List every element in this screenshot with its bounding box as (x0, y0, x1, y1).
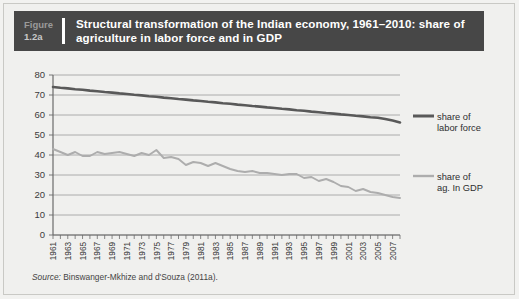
x-axis-label: 2003 (359, 242, 368, 261)
x-axis-label: 1993 (285, 242, 294, 261)
legend-label-2-line1: share of (437, 172, 471, 182)
x-axis-label: 2007 (389, 242, 398, 261)
line-chart: 0102030405060708019611963196519671969197… (4, 4, 516, 296)
source-prefix: Source: (32, 272, 61, 282)
source-note: Source: Binswanger-Mkhize and d'Souza (2… (32, 272, 218, 282)
y-axis-label: 70 (34, 89, 45, 100)
legend-label-2-line2: ag. In GDP (437, 183, 483, 193)
chart-plot-area: 0102030405060708019611963196519671969197… (4, 4, 516, 296)
x-axis-label: 1983 (212, 242, 221, 261)
x-axis-label: 1975 (153, 242, 162, 261)
x-axis-label: 2001 (345, 242, 354, 261)
x-axis-label: 1977 (167, 242, 176, 261)
x-axis-label: 1979 (182, 242, 191, 261)
x-axis-label: 1963 (64, 242, 73, 261)
y-axis-label: 80 (34, 69, 45, 80)
x-axis-label: 1973 (138, 242, 147, 261)
x-axis-label: 1969 (108, 242, 117, 261)
x-axis-label: 1987 (241, 242, 250, 261)
y-axis-label: 0 (40, 229, 45, 240)
x-axis-label: 1997 (315, 242, 324, 261)
y-axis-label: 40 (34, 149, 45, 160)
figure-container: Figure 1.2a Structural transformation of… (3, 3, 515, 295)
legend-label-1-line2: labor force (437, 123, 481, 133)
y-axis-label: 60 (34, 109, 45, 120)
series-line-1 (53, 87, 400, 122)
y-axis-label: 10 (34, 209, 45, 220)
x-axis-label: 1991 (271, 242, 280, 261)
x-axis-label: 1971 (123, 242, 132, 261)
source-citation: Binswanger-Mkhize and d'Souza (2011a). (63, 272, 218, 282)
x-axis-label: 1981 (197, 242, 206, 261)
x-axis-label: 1961 (49, 242, 58, 261)
x-axis-label: 1985 (226, 242, 235, 261)
y-axis-label: 30 (34, 169, 45, 180)
y-axis-label: 20 (34, 189, 45, 200)
x-axis-label: 1967 (93, 242, 102, 261)
legend-label-1-line1: share of (437, 112, 471, 122)
x-axis-label: 1999 (330, 242, 339, 261)
x-axis-label: 1989 (256, 242, 265, 261)
x-axis-label: 2005 (374, 242, 383, 261)
x-axis-label: 1965 (79, 242, 88, 261)
x-axis-label: 1995 (300, 242, 309, 261)
series-line-2 (53, 149, 400, 198)
y-axis-label: 50 (34, 129, 45, 140)
